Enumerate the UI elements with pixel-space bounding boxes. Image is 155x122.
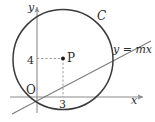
geometry-figure: y x O C y = mx 4 3 P <box>0 0 155 122</box>
y-tick-label-4: 4 <box>27 55 34 66</box>
point-p-marker <box>61 57 65 61</box>
circle-label-c: C <box>97 10 106 22</box>
point-p-label: P <box>67 52 75 64</box>
origin-label: O <box>26 84 36 96</box>
line-equation-label: y = mx <box>113 44 152 55</box>
y-axis-label: y <box>28 2 34 13</box>
x-axis-label: x <box>131 95 137 106</box>
x-tick-label-3: 3 <box>59 99 66 110</box>
